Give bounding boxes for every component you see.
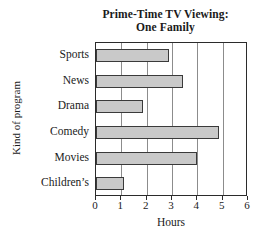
bar-row [96,94,248,119]
tick-label-1: 1 [112,199,128,211]
bar-drama [96,100,143,113]
bar-row [96,43,248,68]
category-label-movies: Movies [55,145,90,170]
category-label-news: News [63,68,89,93]
category-label-sports: Sports [60,42,89,67]
x-axis-title: Hours [95,216,247,228]
tick-label-6: 6 [239,199,255,211]
bar-row [96,171,248,196]
bar-series [96,43,246,195]
category-axis-labels: SportsNewsDramaComedyMoviesChildren’s [0,42,92,196]
tick-label-4: 4 [188,199,204,211]
bar-chart-figure: Prime-Time TV Viewing: One Family Kind o… [0,0,263,244]
tick-label-5: 5 [214,199,230,211]
bar-row [96,146,248,171]
x-axis-ticks: 0123456 [95,196,247,214]
chart-title-line-2: One Family [78,21,253,34]
category-label-children-s: Children’s [41,170,89,195]
plot-area [95,42,247,196]
tick-label-3: 3 [163,199,179,211]
bar-children-s [96,177,124,190]
category-label-comedy: Comedy [50,119,89,144]
tick-label-2: 2 [138,199,154,211]
bar-comedy [96,126,219,139]
bar-movies [96,152,197,165]
bar-row [96,120,248,145]
chart-title-line-1: Prime-Time TV Viewing: [78,8,253,21]
bar-sports [96,49,169,62]
bar-news [96,75,183,88]
category-label-drama: Drama [58,93,89,118]
bar-row [96,69,248,94]
chart-title: Prime-Time TV Viewing: One Family [78,8,253,34]
tick-label-0: 0 [87,199,103,211]
